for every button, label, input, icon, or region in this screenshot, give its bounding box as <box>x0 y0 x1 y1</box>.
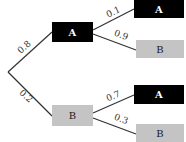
node-label: A <box>155 89 163 100</box>
node-label: A <box>155 4 163 15</box>
node-a-given-b: A <box>134 85 184 104</box>
node-label: A <box>69 27 77 38</box>
node-b-given-a: B <box>136 40 184 58</box>
node-a-given-a: A <box>134 0 184 18</box>
tree-edges <box>0 0 186 142</box>
node-label: B <box>69 110 76 121</box>
node-a-level1: A <box>52 22 93 42</box>
node-b-given-b: B <box>136 124 184 142</box>
edge-root-to-a <box>8 32 52 72</box>
node-label: B <box>156 44 163 55</box>
node-label: B <box>156 128 163 139</box>
node-b-level1: B <box>52 105 93 126</box>
